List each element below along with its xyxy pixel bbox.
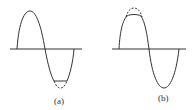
panel-b [112,8,186,88]
wave-positive-a [17,11,45,49]
wave-negative-b [149,49,179,88]
wave-negative-clipped-a [45,49,74,81]
panel-label-a: (a) [54,96,64,106]
panel-label-b: (b) [158,93,169,103]
wave-positive-clipped-b [119,15,149,50]
panel-a [10,11,82,88]
dashed-original-trough-a [54,81,67,88]
